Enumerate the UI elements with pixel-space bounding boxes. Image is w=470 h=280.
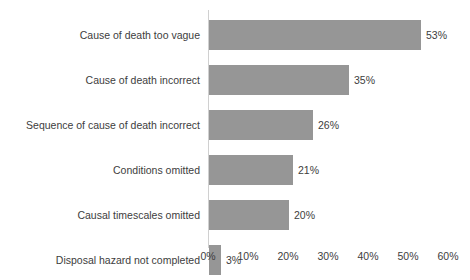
category-label: Sequence of cause of death incorrect	[8, 118, 200, 131]
plot-area: Cause of death too vague53%Cause of deat…	[0, 0, 470, 280]
bar-value-label: 21%	[298, 164, 319, 176]
bar	[209, 20, 421, 50]
x-tick-label: 40%	[357, 250, 378, 262]
bar-value-label: 35%	[354, 74, 375, 86]
bar-chart: Cause of death too vague53%Cause of deat…	[0, 0, 470, 280]
category-label: Cause of death incorrect	[8, 73, 200, 86]
x-tick-label: 50%	[397, 250, 418, 262]
category-label: Causal timescales omitted	[8, 208, 200, 221]
bar-row: Sequence of cause of death incorrect26%	[0, 102, 470, 147]
x-tick-label: 60%	[437, 250, 458, 262]
x-tick-label: 10%	[237, 250, 258, 262]
x-tick-label: 20%	[277, 250, 298, 262]
bar	[209, 65, 349, 95]
value-axis-ticks: 0%10%20%30%40%50%60%	[0, 250, 470, 272]
bar-value-label: 20%	[294, 209, 315, 221]
bar-row: Cause of death incorrect35%	[0, 57, 470, 102]
category-label: Cause of death too vague	[8, 28, 200, 41]
x-tick-label: 0%	[200, 250, 215, 262]
bar-row: Conditions omitted21%	[0, 147, 470, 192]
bar	[209, 200, 289, 230]
bar-row: Causal timescales omitted20%	[0, 192, 470, 237]
bar-value-label: 53%	[426, 29, 447, 41]
x-tick-label: 30%	[317, 250, 338, 262]
bar	[209, 110, 313, 140]
bar-value-label: 26%	[318, 119, 339, 131]
category-label: Conditions omitted	[8, 163, 200, 176]
bar	[209, 155, 293, 185]
bar-row: Cause of death too vague53%	[0, 12, 470, 57]
